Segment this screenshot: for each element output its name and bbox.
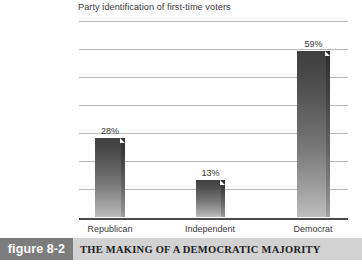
bar-democrat[interactable]: 59%: [297, 20, 330, 217]
figure-caption-bar: figure 8-2 THE MAKING OF A DEMOCRATIC MA…: [0, 238, 362, 260]
bar-body: [95, 138, 125, 217]
bar-independent[interactable]: 13%: [196, 20, 225, 217]
figure-container: Party identification of first-time voter…: [0, 0, 362, 267]
category-label-democrat: Democrat: [293, 224, 332, 234]
x-axis-baseline: [79, 218, 348, 220]
plot-area: 28% Republican 13% Independent 59% Democ…: [79, 21, 348, 219]
bar-value-label: 28%: [101, 126, 119, 136]
bar-body: [297, 51, 330, 217]
bar-value-label: 13%: [201, 168, 219, 178]
figure-number-label: figure 8-2: [8, 242, 65, 256]
figure-number-badge: figure 8-2: [0, 238, 73, 260]
bar-side-face: [221, 180, 225, 217]
category-label-republican: Republican: [87, 224, 132, 234]
category-label-independent: Independent: [185, 224, 235, 234]
bar-side-face: [121, 138, 125, 217]
caption-underline: [0, 260, 362, 261]
bar-body: [196, 180, 225, 217]
bar-side-face: [326, 51, 330, 217]
bar-value-label: 59%: [304, 39, 322, 49]
figure-caption-title: THE MAKING OF A DEMOCRATIC MAJORITY: [80, 238, 321, 260]
chart-title: Party identification of first-time voter…: [78, 2, 231, 12]
bar-republican[interactable]: 28%: [95, 20, 125, 217]
